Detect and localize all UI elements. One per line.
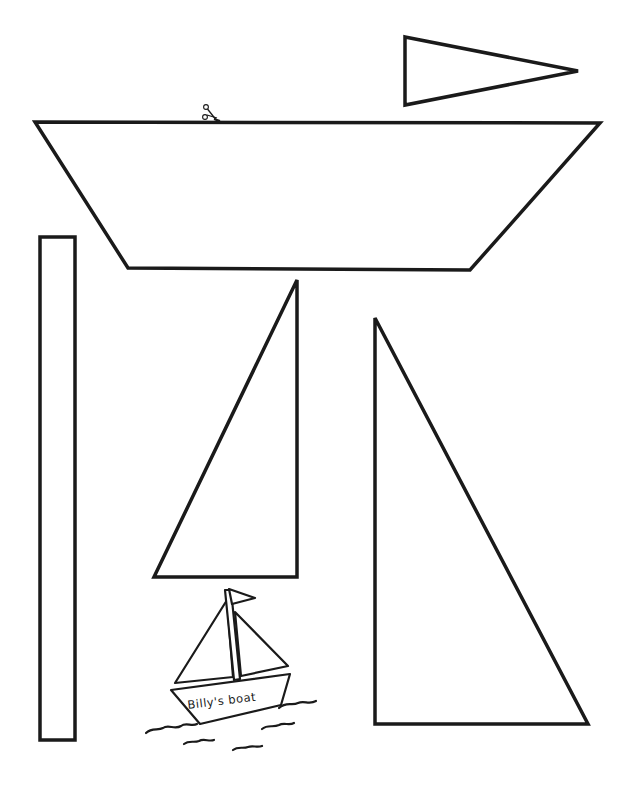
example-boat-illustration: Billy's boat — [146, 589, 316, 750]
example-left-sail — [175, 600, 233, 683]
scissors-icon — [203, 105, 220, 121]
wave-icon — [146, 724, 197, 733]
example-right-sail — [235, 612, 288, 676]
mast-piece[interactable] — [40, 237, 75, 740]
boat-hull-piece[interactable] — [35, 122, 600, 270]
example-flag-icon — [229, 589, 255, 604]
wave-icon — [184, 740, 214, 744]
wave-icon — [279, 701, 316, 708]
large-sail-piece[interactable] — [375, 318, 588, 724]
wave-icon — [233, 746, 262, 750]
cutout-template-canvas: Billy's boat — [0, 0, 635, 790]
small-sail-piece[interactable] — [154, 280, 297, 577]
pennant-flag-piece[interactable] — [405, 37, 578, 105]
wave-icon — [262, 723, 294, 729]
